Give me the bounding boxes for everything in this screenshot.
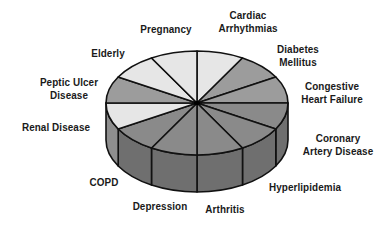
slice-label-line: Coronary — [303, 132, 373, 145]
slice-label-line: Congestive — [301, 80, 363, 93]
slice-label-line: COPD — [90, 176, 119, 189]
slice-label-line: Cardiac — [218, 9, 277, 22]
slice-label-line: Elderly — [91, 47, 125, 60]
slice-label-line: Hyperlipidemia — [269, 181, 341, 194]
slice-label-line: Arthritis — [205, 203, 244, 216]
slice-label-line: Disease — [40, 89, 98, 102]
slice-label: Arthritis — [205, 203, 244, 216]
slice-label: CongestiveHeart Failure — [301, 80, 363, 106]
slice-label-line: Depression — [133, 200, 188, 213]
slice-label: CoronaryArtery Disease — [303, 132, 373, 158]
slice-label-line: Renal Disease — [22, 121, 90, 134]
slice-label: Depression — [133, 200, 188, 213]
slice-label-line: Artery Disease — [303, 145, 373, 158]
slice-label: Peptic UlcerDisease — [40, 76, 98, 102]
slice-label-line: Mellitus — [277, 56, 319, 69]
slice-label: CardiacArrhythmias — [218, 9, 277, 35]
slice-label-line: Heart Failure — [301, 93, 363, 106]
slice-label: Renal Disease — [22, 121, 90, 134]
slice-label-line: Arrhythmias — [218, 22, 277, 35]
pie-center — [194, 101, 200, 105]
slice-label-line: Pregnancy — [140, 23, 191, 36]
slice-label: Elderly — [91, 47, 125, 60]
slice-label-line: Peptic Ulcer — [40, 76, 98, 89]
slice-label-line: Diabetes — [277, 43, 319, 56]
slice-label: Hyperlipidemia — [269, 181, 341, 194]
slice-label: DiabetesMellitus — [277, 43, 319, 69]
slice-label: COPD — [90, 176, 119, 189]
pie-top — [106, 51, 288, 155]
slice-label: Pregnancy — [140, 23, 191, 36]
